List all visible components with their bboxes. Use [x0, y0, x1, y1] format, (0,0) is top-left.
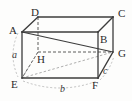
vertex-label-A: A [9, 25, 17, 36]
vertex-label-D: D [31, 7, 39, 18]
dimension-label-c: c [103, 66, 107, 76]
helper-diagonals [22, 52, 113, 78]
vertex-label-G: G [118, 48, 126, 59]
solid-edges [22, 17, 113, 78]
box-diagram-svg [0, 0, 132, 101]
dimension-label-a: a [12, 50, 17, 60]
vertex-label-B: B [100, 34, 107, 45]
vertex-label-H: H [37, 54, 45, 65]
vertex-label-C: C [118, 8, 125, 19]
vertex-label-F: F [92, 80, 98, 91]
figure-canvas: A B C D E F G H a b c [0, 0, 132, 101]
vertex-label-E: E [11, 79, 18, 90]
edge-C-B [98, 17, 113, 32]
edge-A-D [22, 17, 38, 32]
hidden-edges [22, 17, 113, 78]
diagonal-E-G [22, 52, 113, 78]
dimension-label-b: b [60, 84, 65, 94]
